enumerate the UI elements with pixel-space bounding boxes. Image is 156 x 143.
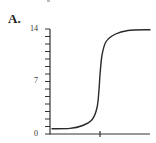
titration-curve (52, 30, 150, 129)
titration-chart (0, 0, 156, 143)
axes (45, 29, 150, 137)
